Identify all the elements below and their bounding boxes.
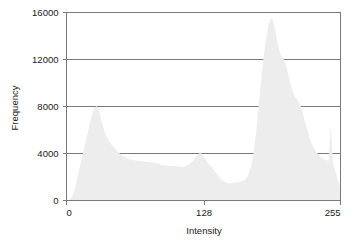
x-axis-title: Intensity	[186, 225, 222, 236]
x-axis-tick-label: 255	[325, 207, 341, 218]
histogram-figure: 0400080001200016000 0128255 Intensity Fr…	[0, 0, 361, 240]
y-axis-tick-label: 0	[53, 195, 58, 206]
y-axis-tick-label: 12000	[32, 54, 58, 65]
y-axis-tick-label: 8000	[37, 101, 58, 112]
chart-canvas: 0400080001200016000 0128255 Intensity Fr…	[0, 0, 361, 240]
y-axis-tick-label: 16000	[32, 7, 58, 18]
y-axis-title: Frequency	[9, 85, 20, 130]
x-axis-tick-label: 0	[67, 207, 72, 218]
x-axis-tick-label: 128	[196, 207, 212, 218]
y-axis-tick-label: 4000	[37, 148, 58, 159]
